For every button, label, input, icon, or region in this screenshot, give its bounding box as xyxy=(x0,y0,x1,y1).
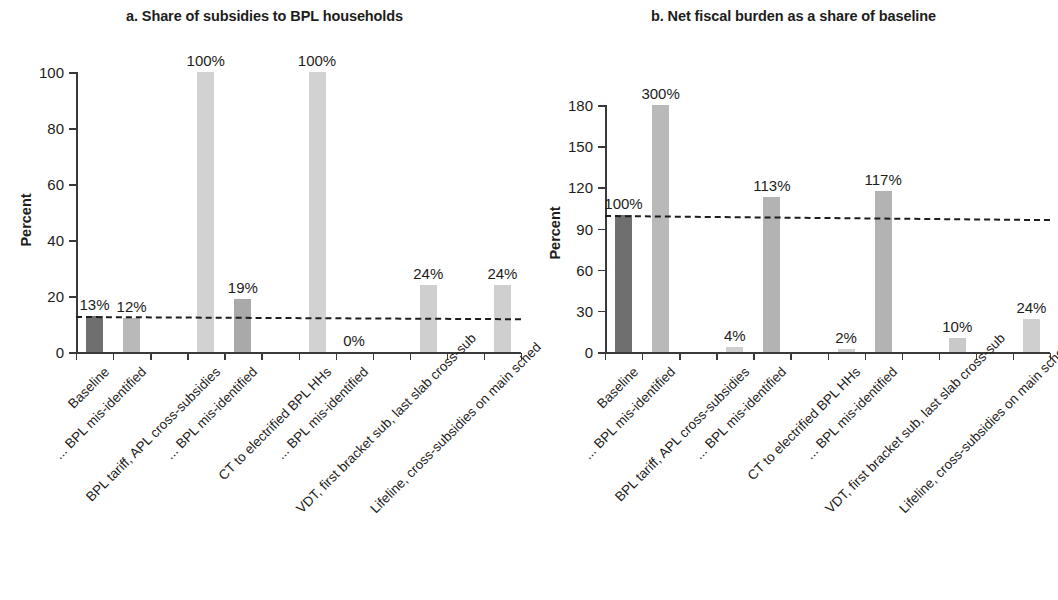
y-axis-tick xyxy=(598,146,605,148)
y-axis-tick-label: 0 xyxy=(20,344,64,361)
bar-value-label: 24% xyxy=(413,265,443,282)
bar-value-label: 300% xyxy=(641,85,679,102)
x-axis-tick xyxy=(865,353,866,360)
x-axis-tick xyxy=(410,353,411,360)
panel-a-title: a. Share of subsidies to BPL households xyxy=(0,8,529,24)
y-axis-tick xyxy=(598,270,605,272)
bar-value-label: 100% xyxy=(604,195,642,212)
x-axis-tick xyxy=(753,353,754,360)
panel-a-plot-area: 02040608010013%12%100%19%100%0%24%24% xyxy=(76,72,521,352)
x-axis-tick xyxy=(187,353,188,360)
x-axis-tick xyxy=(716,353,717,360)
x-axis-tick xyxy=(336,353,337,360)
x-axis-tick xyxy=(828,353,829,360)
y-axis-tick-label: 150 xyxy=(549,138,593,155)
x-axis-tick xyxy=(642,353,643,360)
bar-value-label: 24% xyxy=(487,265,517,282)
bar xyxy=(726,347,743,352)
y-axis-tick xyxy=(598,105,605,107)
bar xyxy=(838,349,855,352)
bar-value-label: 113% xyxy=(753,177,790,194)
bar xyxy=(1023,319,1040,352)
y-axis-tick-label: 120 xyxy=(549,179,593,196)
y-axis-tick-label: 100 xyxy=(20,64,64,81)
x-axis-tick xyxy=(902,353,903,360)
baseline-reference-line xyxy=(605,215,1050,221)
bar-value-label: 2% xyxy=(835,329,857,346)
bar xyxy=(197,72,214,352)
x-axis-tick xyxy=(484,353,485,360)
y-axis-tick-label: 30 xyxy=(549,302,593,319)
bar-value-label: 0% xyxy=(343,332,365,349)
y-axis-tick-label: 80 xyxy=(20,120,64,137)
x-axis-category-label: Lifeline, cross-subsidies on main sched xyxy=(368,364,520,516)
x-axis-tick xyxy=(939,353,940,360)
panel-a-share-of-subsidies: a. Share of subsidies to BPL households … xyxy=(0,0,529,600)
x-axis-tick xyxy=(224,353,225,360)
y-axis-tick xyxy=(69,352,76,354)
panel-b-title: b. Net fiscal burden as a share of basel… xyxy=(529,8,1058,24)
x-axis-tick xyxy=(261,353,262,360)
y-axis-tick-label: 90 xyxy=(549,220,593,237)
y-axis-tick-label: 180 xyxy=(549,97,593,114)
bar-value-label: 13% xyxy=(80,296,110,313)
bar-value-label: 100% xyxy=(298,52,336,69)
y-axis-tick xyxy=(69,72,76,74)
bar-value-label: 10% xyxy=(942,318,972,335)
bar xyxy=(763,197,780,352)
x-axis-tick xyxy=(299,353,300,360)
y-axis-tick xyxy=(69,128,76,130)
bar-value-label: 117% xyxy=(864,171,901,188)
x-axis-tick xyxy=(1013,353,1014,360)
x-axis-tick xyxy=(113,353,114,360)
y-axis-tick-label: 60 xyxy=(549,261,593,278)
bar-value-label: 4% xyxy=(724,327,746,344)
y-axis-tick xyxy=(598,187,605,189)
bar xyxy=(875,191,892,352)
bar-value-label: 19% xyxy=(228,279,258,296)
y-axis-tick-label: 0 xyxy=(549,344,593,361)
x-axis-category-label: Lifeline, cross-subsidies on main sched xyxy=(897,364,1049,516)
bar-value-label: 24% xyxy=(1016,299,1046,316)
y-axis-tick xyxy=(69,240,76,242)
x-axis-tick xyxy=(679,353,680,360)
bar xyxy=(652,105,669,352)
two-panel-bar-figure: a. Share of subsidies to BPL households … xyxy=(0,0,1058,600)
y-axis-tick-label: 40 xyxy=(20,232,64,249)
y-axis-line xyxy=(76,72,78,353)
bar xyxy=(234,299,251,352)
y-axis-line xyxy=(605,105,607,353)
y-axis-tick-label: 60 xyxy=(20,176,64,193)
baseline-reference-line xyxy=(76,316,521,320)
x-axis-tick xyxy=(790,353,791,360)
bar xyxy=(615,215,632,352)
x-axis-tick xyxy=(150,353,151,360)
panel-b-net-fiscal-burden: b. Net fiscal burden as a share of basel… xyxy=(529,0,1058,600)
y-axis-tick xyxy=(598,352,605,354)
bar xyxy=(123,318,140,352)
bar xyxy=(309,72,326,352)
y-axis-tick xyxy=(69,184,76,186)
bar xyxy=(949,338,966,352)
x-axis-tick xyxy=(373,353,374,360)
panel-b-plot-area: 0306090120150180100%300%4%113%2%117%10%2… xyxy=(605,105,1050,352)
y-axis-tick-label: 20 xyxy=(20,288,64,305)
x-axis-tick xyxy=(76,353,77,360)
bar-value-label: 100% xyxy=(187,52,225,69)
y-axis-tick xyxy=(69,296,76,298)
y-axis-tick xyxy=(598,311,605,313)
y-axis-tick xyxy=(598,229,605,231)
x-axis-tick xyxy=(605,353,606,360)
bar xyxy=(86,316,103,352)
bar-value-label: 12% xyxy=(117,298,147,315)
